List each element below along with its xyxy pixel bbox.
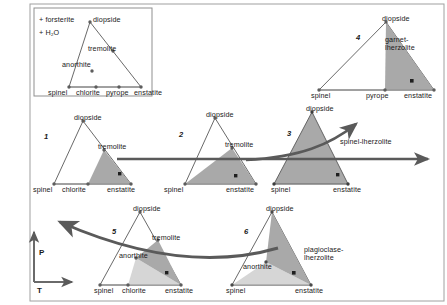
triangle-2-number: 2 (179, 131, 183, 139)
inset-point-spinel (67, 85, 70, 88)
triangle-4-shade-diopside-pyrope-enstatite (385, 22, 434, 90)
figure-canvas: + forsterite + H₂O diopside tremolite an… (0, 0, 447, 305)
triangle-1-bulk-composition-marker (118, 172, 121, 175)
triangle-2-point-enstatite (254, 182, 257, 185)
triangle-1-label-spinel: spinel (33, 186, 52, 194)
triangle-1-label-diopside: diopside (74, 114, 102, 122)
triangle-5-label-enstatite: enstatite (165, 287, 193, 295)
triangle-1-number: 1 (44, 133, 48, 141)
triangle-6-bulk-composition-marker (292, 271, 296, 275)
triangle-3-label-spinel: spinel (271, 186, 290, 194)
axis-label-pressure: P (39, 249, 44, 257)
triangle-4-label-pyrope: pyrope (366, 92, 389, 100)
triangle-2-label-enstatite: enstatite (226, 186, 254, 194)
triangle-1-label-chlorite: chlorite (62, 186, 86, 194)
triangle-3-field-label-spinel-lherzolite: spinel-lherzolite (340, 138, 392, 146)
inset-label-anorthite: anorthite (62, 61, 91, 69)
inset-condition-water: + H₂O (39, 29, 59, 37)
inset-label-spinel: spinel (48, 89, 67, 97)
inset-label-enstatite: enstatite (134, 89, 162, 97)
triangle-5-number: 5 (112, 228, 116, 236)
triangle-3-label-enstatite: enstatite (333, 186, 361, 194)
triangle-5-label-chlorite: chlorite (122, 287, 146, 295)
triangle-3-label-diopside: diopside (306, 105, 334, 113)
triangle-5-label-spinel: spinel (94, 287, 113, 295)
triangle-2-label-diopside: diopside (206, 111, 234, 119)
triangle-6-label-diopside: diopside (266, 205, 294, 213)
triangle-5-label-diopside: diopside (133, 205, 161, 213)
triangle-5-label-tremolite: tremolite (152, 234, 180, 242)
phase-diagram-graphics (0, 0, 447, 305)
inset-point-diopside (88, 20, 91, 23)
triangle-2-bulk-composition-marker (234, 174, 237, 177)
axis-label-temperature: T (37, 287, 42, 295)
inset-condition-forsterite: + forsterite (39, 16, 74, 24)
triangle-6-field-label-line2: lherzolite (304, 254, 334, 262)
triangle-4-label-enstatite: enstatite (404, 92, 432, 100)
triangle-2-label-tremolite: tremolite (225, 141, 253, 149)
triangle-6-label-anorthite: anorthite (243, 263, 272, 271)
triangle-4-label-diopside: diopside (382, 15, 410, 23)
triangle-3-number: 3 (287, 130, 291, 138)
inset-label-tremolite: tremolite (88, 45, 116, 53)
triangle-4-label-spinel: spinel (311, 92, 330, 100)
triangle-4-bulk-composition-marker (410, 79, 414, 83)
triangle-4-field-label-line2: lherzolite (385, 44, 415, 52)
triangle-1-point-spinel (52, 182, 55, 185)
triangle-5-bulk-composition-marker (165, 271, 168, 274)
triangle-2-point-spinel (183, 182, 186, 185)
triangle-4-point-enstatite (432, 88, 435, 91)
triangle-1-label-tremolite: tremolite (98, 143, 126, 151)
inset-label-chlorite: chlorite (76, 89, 100, 97)
inset-point-anorthite (90, 69, 93, 72)
triangle-6-label-enstatite: enstatite (295, 287, 323, 295)
inset-label-diopside: diopside (93, 16, 121, 24)
inset-label-pyrope: pyrope (106, 89, 129, 97)
triangle-2-label-spinel: spinel (164, 186, 183, 194)
triangle-6-label-spinel: spinel (226, 287, 245, 295)
triangle-1-label-enstatite: enstatite (107, 186, 135, 194)
triangle-6-number: 6 (244, 228, 248, 236)
triangle-5-label-anorthite: anorthite (119, 252, 148, 260)
triangle-1-point-chlorite (86, 182, 89, 185)
triangle-4-number: 4 (356, 34, 360, 42)
triangle-3-bulk-composition-marker (336, 173, 339, 176)
triangle-2-shade-spinel-tremolite-enstatite (185, 148, 256, 184)
